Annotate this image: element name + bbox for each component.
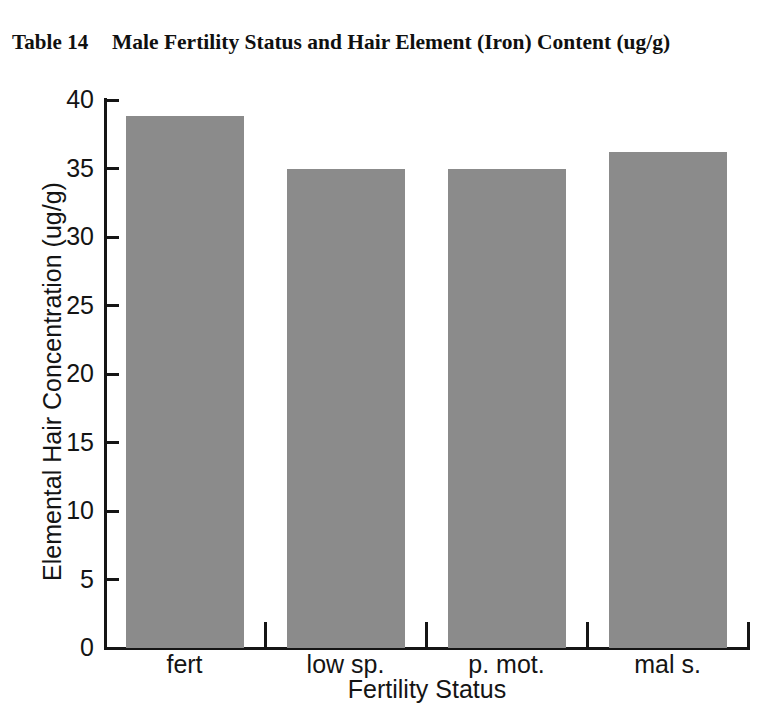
bar	[609, 152, 727, 648]
x-axis-tick	[425, 622, 428, 648]
x-axis-tick	[747, 622, 750, 648]
bar	[448, 169, 566, 649]
bar-chart: 4035302520151050 fertlow sp.p. mot.mal s…	[0, 0, 760, 704]
bar	[287, 169, 405, 649]
y-axis-tick	[104, 236, 119, 239]
y-axis-tick	[104, 510, 119, 513]
y-axis-tick	[104, 99, 119, 102]
x-axis-tick	[264, 622, 267, 648]
x-axis-title: Fertility Status	[104, 676, 750, 703]
x-axis-category-label: p. mot.	[426, 650, 587, 678]
y-axis-tick	[104, 304, 119, 307]
y-axis-tick	[104, 167, 119, 170]
y-axis-tick	[104, 373, 119, 376]
y-axis-tick	[104, 578, 119, 581]
y-axis-tick	[104, 441, 119, 444]
x-axis-category-label: fert	[104, 650, 265, 678]
bar	[126, 116, 244, 648]
x-axis-tick	[586, 622, 589, 648]
y-axis-title: Elemental Hair Concentration (ug/g)	[39, 102, 66, 662]
x-axis-category-label: mal s.	[587, 650, 748, 678]
x-axis-category-label: low sp.	[265, 650, 426, 678]
